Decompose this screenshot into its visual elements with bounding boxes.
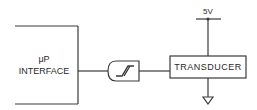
transducer-label: TRANSDUCER [174,62,242,72]
supply-node-dot [206,17,209,20]
interface-label-line2: INTERFACE [19,66,70,76]
schmitt-trigger-gate [108,61,139,81]
interface-label-line1: μP [38,54,49,64]
supply-label: 5V [203,7,213,16]
interface-block [15,26,78,104]
supply-rail [196,19,221,56]
hysteresis-icon [116,66,134,76]
schematic-diagram: μP INTERFACE TRANSDUCER 5V [0,0,257,110]
ground-symbol [203,78,213,104]
